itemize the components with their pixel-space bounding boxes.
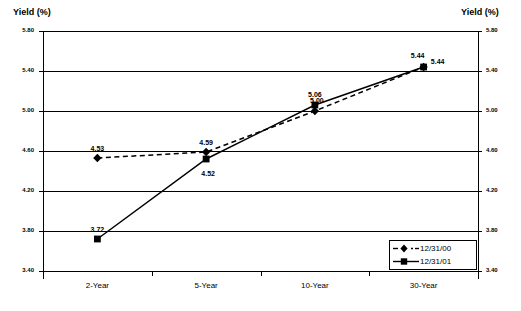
y-tick-label-right: 3.40 xyxy=(486,267,508,273)
y-tick-label-right: 5.80 xyxy=(486,27,508,33)
yield-curve-chart: Yield (%) Yield (%) 5.805.405.004.604.20… xyxy=(0,0,521,311)
legend-item-1: 12/31/01 xyxy=(393,255,451,268)
y-tick-label-right: 3.80 xyxy=(486,227,508,233)
data-label-s1-1: 4.52 xyxy=(201,170,215,177)
series-line-0 xyxy=(97,67,423,158)
data-label-s1-2: 5.06 xyxy=(308,91,322,98)
square-marker-icon xyxy=(420,64,427,71)
square-marker-icon xyxy=(203,156,210,163)
x-tick-label-1: 5-Year xyxy=(194,281,217,290)
x-tick-label-3: 30-Year xyxy=(410,281,438,290)
data-label-s1-0: 3.72 xyxy=(91,226,105,233)
data-label-s0-2: 5.00 xyxy=(310,97,324,104)
x-tick-label-0: 2-Year xyxy=(86,281,109,290)
square-marker-icon xyxy=(94,236,101,243)
y-tick-label-left: 3.40 xyxy=(12,267,34,273)
data-label-s0-3: 5.44 xyxy=(411,52,425,59)
legend-item-0: 12/31/00 xyxy=(393,242,451,255)
y-tick-label-right: 4.20 xyxy=(486,187,508,193)
y-tick-label-left: 4.60 xyxy=(12,147,34,153)
square-marker-icon xyxy=(393,256,419,267)
data-label-s1-3: 5.44 xyxy=(431,58,445,65)
legend-label-1: 12/31/01 xyxy=(420,257,451,266)
y-tick-label-left: 5.00 xyxy=(12,107,34,113)
y-tick-label-left: 4.20 xyxy=(12,187,34,193)
series-line-1 xyxy=(97,67,423,239)
x-tick-label-2: 10-Year xyxy=(301,281,329,290)
y-tick-label-left: 5.80 xyxy=(12,27,34,33)
legend: 12/31/00 12/31/01 xyxy=(389,240,477,270)
diamond-marker-icon xyxy=(202,148,210,156)
legend-label-0: 12/31/00 xyxy=(420,244,451,253)
diamond-marker-icon xyxy=(393,243,419,254)
data-label-s0-1: 4.59 xyxy=(199,139,213,146)
y-tick-label-left: 5.40 xyxy=(12,67,34,73)
y-tick-label-right: 4.60 xyxy=(486,147,508,153)
y-tick-label-right: 5.00 xyxy=(486,107,508,113)
series-lines xyxy=(97,67,423,239)
y-tick-label-left: 3.80 xyxy=(12,227,34,233)
y-tick-label-right: 5.40 xyxy=(486,67,508,73)
diamond-marker-icon xyxy=(93,154,101,162)
data-label-s0-0: 4.53 xyxy=(91,145,105,152)
series-markers xyxy=(93,63,428,243)
